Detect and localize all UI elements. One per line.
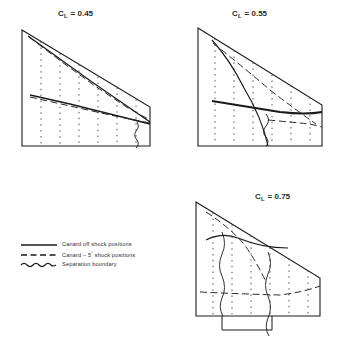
separation-boundary-inboard [220,232,225,316]
legend-item-canard-5deg: Canard – 5° shock positions [20,250,170,260]
shock-canard-off-forward [206,235,288,248]
legend: Canard off shock positions Canard – 5° s… [20,240,170,270]
legend-label-separation: Separation boundary [58,262,117,268]
cl-subscript: L [64,13,68,19]
shock-canard-5deg-forward [213,43,316,124]
panel-cl-055: CL = 0.55 [170,0,339,170]
shock-canard-off-forward [212,40,268,146]
legend-key-wavy-icon [20,260,58,270]
legend-item-separation: Separation boundary [20,260,170,270]
span-bracket [222,316,272,330]
legend-label-canard-5deg-post: shock positions [93,252,135,258]
cl-subscript: L [261,196,265,202]
legend-label-canard-5deg-pre: Canard – 5 [62,252,91,258]
legend-key-solid-icon [20,240,58,250]
separation-boundary [135,122,139,148]
shock-canard-5deg-forward [206,212,266,282]
legend-label-canard-off: Canard off shock positions [58,242,132,248]
cl-subscript: L [238,13,242,19]
panel-cl-075: CL = 0.75 [170,170,339,340]
cl-value: = 0.75 [268,192,290,201]
legend-item-canard-off: Canard off shock positions [20,240,170,250]
cl-value: = 0.45 [71,9,93,18]
planform-svg-cl-045 [0,0,170,170]
panel-title-cl-045: CL = 0.45 [58,9,93,19]
shock-canard-off-aft [212,101,322,114]
panel-cl-045: CL = 0.45 [0,0,170,170]
wing-outline [196,202,320,316]
shock-canard-5deg-aft [200,286,320,295]
shock-canard-5deg-aft [268,120,322,127]
cl-value: = 0.55 [245,9,267,18]
separation-boundary-outboard [266,252,271,336]
planform-svg-cl-055 [170,0,339,170]
figure-root: CL = 0.45 [0,0,339,340]
legend-label-canard-5deg: Canard – 5° shock positions [58,251,135,259]
wing-outline [22,30,150,146]
panel-title-cl-055: CL = 0.55 [232,9,267,19]
legend-key-dashed-icon [20,250,58,260]
panel-title-cl-075: CL = 0.75 [255,192,290,202]
